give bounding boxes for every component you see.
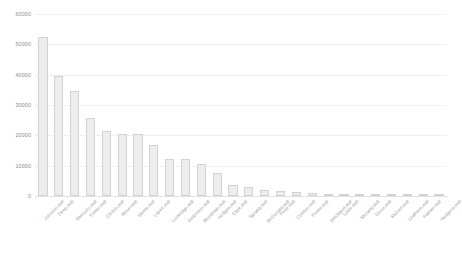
bar-slot — [431, 14, 447, 196]
x-axis-label-slot: Woodman.mdl — [193, 197, 209, 257]
x-axis-label-slot: Hudgens.mdl — [431, 197, 447, 257]
bar[interactable] — [403, 194, 412, 196]
x-axis-label-slot: Winer.mdl — [114, 197, 130, 257]
bar-slot — [368, 14, 384, 196]
bar-series — [35, 14, 447, 196]
bar[interactable] — [38, 37, 47, 196]
bar-slot — [35, 14, 51, 196]
x-axis-label-slot: Tanaka.mdl — [241, 197, 257, 257]
bar[interactable] — [419, 194, 428, 196]
bar[interactable] — [434, 194, 443, 196]
bar[interactable] — [324, 194, 333, 196]
x-axis-label-slot: Foster.mdl — [83, 197, 99, 257]
x-axis-label-slot: McDonald.mdl — [257, 197, 273, 257]
y-axis-tick-label: 40000 — [16, 72, 32, 78]
plot-area — [35, 14, 447, 196]
bar-slot — [225, 14, 241, 196]
bar-slot — [130, 14, 146, 196]
y-axis-tick-label: 10000 — [16, 163, 32, 169]
bar[interactable] — [292, 192, 301, 196]
bar-slot — [289, 14, 305, 196]
bar-slot — [336, 14, 352, 196]
bar[interactable] — [118, 134, 127, 196]
bar-slot — [209, 14, 225, 196]
x-axis-label-slot: Dixon.mdl — [368, 197, 384, 257]
x-axis-label-slot: Lopez.mdl — [146, 197, 162, 257]
bar-slot — [352, 14, 368, 196]
bar-slot — [83, 14, 99, 196]
bar[interactable] — [133, 134, 142, 196]
x-axis-label-slot: Mccarty.mdl — [352, 197, 368, 257]
bar-slot — [241, 14, 257, 196]
bar[interactable] — [181, 159, 190, 196]
bar[interactable] — [308, 193, 317, 196]
bar-slot — [67, 14, 83, 196]
x-axis-label-slot: Lockridge.mdl — [162, 197, 178, 257]
bar[interactable] — [149, 145, 158, 196]
y-axis-tick-label: 0 — [28, 193, 31, 199]
x-axis-tick-label: Hudgens.mdl — [439, 199, 462, 222]
bar-slot — [384, 14, 400, 196]
x-axis-label-slot: Clinton.mdl — [98, 197, 114, 257]
bar[interactable] — [355, 194, 364, 196]
x-axis-label-slot: Dickinson.mdl — [178, 197, 194, 257]
x-axis-label-slot: Strickland.mdl — [320, 197, 336, 257]
y-axis-tick-label: 60000 — [16, 11, 32, 17]
x-axis-label-slot: Hodges.mdl — [209, 197, 225, 257]
bar[interactable] — [228, 185, 237, 196]
bar-slot — [273, 14, 289, 196]
x-axis-label-slot: Palmer.mdl — [415, 197, 431, 257]
x-axis-labels: Johnson.mdlDeep.mdlMercurio.mdlFoster.md… — [35, 197, 447, 257]
bar-slot — [178, 14, 194, 196]
bar-slot — [98, 14, 114, 196]
bar[interactable] — [260, 190, 269, 196]
bar-slot — [399, 14, 415, 196]
bar-slot — [51, 14, 67, 196]
bar[interactable] — [213, 173, 222, 196]
bar-slot — [415, 14, 431, 196]
x-axis-label-slot: Flores.mdl — [304, 197, 320, 257]
bar[interactable] — [244, 187, 253, 196]
x-axis-label-slot: Clark.mdl — [225, 197, 241, 257]
x-axis-label-slot: Mulvell.mdl — [384, 197, 400, 257]
x-axis-label-slot: Johnson.mdl — [35, 197, 51, 257]
bar-slot — [304, 14, 320, 196]
y-axis-tick-label: 50000 — [16, 41, 32, 47]
x-axis-label-slot: Steele.mdl — [130, 197, 146, 257]
bar-slot — [114, 14, 130, 196]
bar[interactable] — [54, 76, 63, 196]
y-axis-tick-label: 20000 — [16, 132, 32, 138]
x-axis-label-slot: Leathers.mdl — [399, 197, 415, 257]
bar-slot — [146, 14, 162, 196]
bar[interactable] — [70, 91, 79, 196]
bar-slot — [193, 14, 209, 196]
x-axis-label-slot: Price.mdl — [273, 197, 289, 257]
bar[interactable] — [86, 118, 95, 196]
bar[interactable] — [197, 164, 206, 196]
x-axis-label-slot: Deep.mdl — [51, 197, 67, 257]
bar[interactable] — [165, 159, 174, 196]
bar[interactable] — [371, 194, 380, 196]
x-axis-label-slot: Lokie.mdl — [336, 197, 352, 257]
bar[interactable] — [276, 191, 285, 196]
y-axis-tick-label: 30000 — [16, 102, 32, 108]
bar[interactable] — [339, 194, 348, 196]
bar-slot — [162, 14, 178, 196]
y-axis: 6000050000400003000020000100000 — [0, 14, 34, 196]
x-axis-label-slot: Colston.mdl — [289, 197, 305, 257]
x-axis-label-slot: Mercurio.mdl — [67, 197, 83, 257]
bar[interactable] — [387, 194, 396, 196]
bar[interactable] — [102, 131, 111, 196]
bar-slot — [320, 14, 336, 196]
bar-slot — [257, 14, 273, 196]
